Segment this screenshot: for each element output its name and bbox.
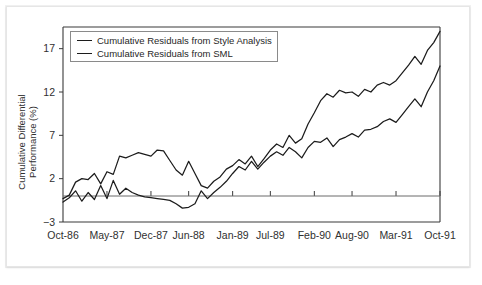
x-tick-label: Feb-90 — [298, 229, 331, 241]
x-tick-label: Oct-86 — [47, 229, 79, 241]
legend-label-sml: Cumulative Residuals from SML — [97, 47, 233, 60]
y-axis-title-line1: Cumulative Differential — [16, 94, 27, 189]
chart-legend: Cumulative Residuals from Style Analysis… — [70, 31, 278, 62]
series-line-sml — [63, 66, 440, 208]
figure-root: Cumulative Differential Performance (%) … — [0, 0, 482, 285]
x-axis-ticks: Oct-86May-87Dec-87Jun-88Jan-89Jul-89Feb-… — [47, 191, 456, 241]
legend-item-style-analysis: Cumulative Residuals from Style Analysis — [75, 34, 273, 47]
x-tick-label: Aug-90 — [335, 229, 369, 241]
y-tick-label: 7 — [49, 129, 55, 141]
legend-swatch-icon — [77, 40, 92, 41]
x-tick-label: Jan-89 — [217, 229, 249, 241]
legend-item-sml: Cumulative Residuals from SML — [75, 47, 273, 60]
x-tick-label: Mar-91 — [379, 229, 412, 241]
legend-label-style-analysis: Cumulative Residuals from Style Analysis — [97, 34, 272, 47]
x-tick-label: Jun-88 — [173, 229, 205, 241]
x-tick-label: May-87 — [89, 229, 124, 241]
y-axis-title: Cumulative Differential Performance (%) — [16, 94, 38, 189]
x-tick-label: Jul-89 — [256, 229, 285, 241]
x-tick-label: Oct-91 — [424, 229, 456, 241]
x-tick-label: Dec-87 — [134, 229, 168, 241]
y-tick-label: −3 — [43, 216, 55, 228]
y-tick-label: 12 — [43, 86, 55, 98]
y-axis-ticks: −3271217 — [43, 42, 63, 227]
y-tick-label: 17 — [43, 42, 55, 54]
y-tick-label: 2 — [49, 172, 55, 184]
y-axis-title-line2: Performance (%) — [27, 106, 38, 178]
legend-swatch-icon — [77, 53, 92, 54]
